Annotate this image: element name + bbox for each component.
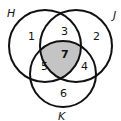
region-label-7: 7 xyxy=(61,48,69,61)
venn-svg: H J K 1 2 3 4 5 6 7 xyxy=(0,0,121,121)
venn-diagram: H J K 1 2 3 4 5 6 7 xyxy=(0,0,121,121)
set-label-j: J xyxy=(111,9,116,22)
region-label-3: 3 xyxy=(61,25,68,38)
region-label-2: 2 xyxy=(93,30,100,43)
region-label-4: 4 xyxy=(81,60,88,73)
region-label-5: 5 xyxy=(41,60,48,73)
set-label-h: H xyxy=(7,7,15,20)
region-label-1: 1 xyxy=(28,30,35,43)
set-label-k: K xyxy=(58,110,66,121)
region-label-6: 6 xyxy=(60,87,67,100)
